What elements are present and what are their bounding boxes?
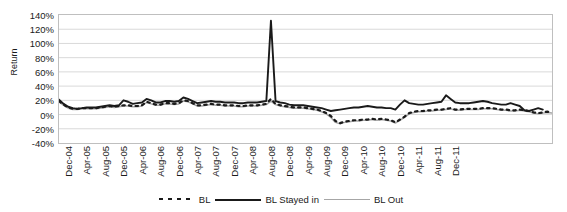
return-line-chart: Return 140%120%100%80%60%40%20%0%-20%-40… [0,0,567,212]
x-tick-label: Dec-05 [118,146,130,184]
x-tick-label: Apr-11 [413,146,425,184]
y-tick-label: 120% [30,25,54,34]
x-tick-label: Dec-07 [229,146,241,184]
x-tick-label: Dec-04 [63,146,75,184]
x-tick-label: Apr-09 [303,146,315,184]
plot-area [58,14,553,144]
y-tick-label: -40% [32,139,54,148]
dotted-line-swatch [159,195,195,203]
legend-item[interactable]: BL Out [324,194,408,205]
x-tick-label: Apr-05 [81,146,93,184]
x-tick-label: Dec-08 [284,146,296,184]
x-tick-label: Aug-06 [155,146,167,184]
y-tick-label: 60% [35,67,54,76]
x-tick-label: Apr-08 [247,146,259,184]
x-tick-label: Aug-09 [321,146,333,184]
series-line-bl-stayed-in [59,21,543,111]
x-tick-label: Apr-07 [192,146,204,184]
chart-legend: BLBL Stayed inBL Out [0,190,567,208]
legend-item[interactable]: BL [159,194,216,205]
x-tick-label: Aug-05 [100,146,112,184]
y-tick-label: 100% [30,39,54,48]
legend-item[interactable]: BL Stayed in [215,194,324,205]
y-tick-label: 20% [35,96,54,105]
x-tick-label: Apr-10 [358,146,370,184]
y-tick-label: 140% [30,11,54,20]
legend-label: BL [195,194,216,205]
legend-label: BL Out [370,194,408,205]
x-tick-label: Apr-06 [137,146,149,184]
y-axis-tick-labels: 140%120%100%80%60%40%20%0%-20%-40% [14,14,56,144]
x-tick-label: Dec-06 [174,146,186,184]
x-axis-tick-labels: Dec-04Apr-05Aug-05Dec-05Apr-06Aug-06Dec-… [58,146,553,184]
solid-gray-line-swatch [324,199,370,200]
x-tick-label: Dec-09 [339,146,351,184]
plot-svg [59,15,552,143]
y-tick-label: 0% [40,110,54,119]
x-tick-label: Dec-11 [450,146,462,184]
y-tick-label: 40% [35,82,54,91]
x-tick-label: Aug-08 [266,146,278,184]
y-tick-label: -20% [32,124,54,133]
legend-label: BL Stayed in [261,194,324,205]
x-tick-label: Aug-11 [432,146,444,184]
x-tick-label: Dec-10 [395,146,407,184]
y-tick-label: 80% [35,53,54,62]
x-tick-label: Aug-07 [210,146,222,184]
x-tick-label: Aug-10 [376,146,388,184]
solid-black-line-swatch [215,199,261,201]
